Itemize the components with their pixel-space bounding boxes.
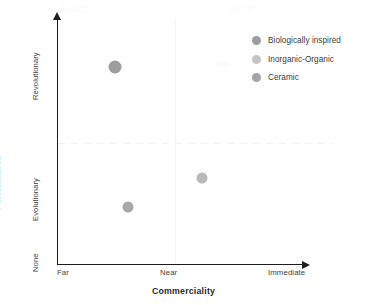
x-axis-line xyxy=(57,264,303,265)
y-axis-line xyxy=(57,20,58,265)
quadrant-divider-vertical xyxy=(175,18,176,266)
x-tick-label-immediate: Immediate xyxy=(268,268,305,277)
y-tick-label-evolutionary: Evolutionary xyxy=(31,178,40,221)
y-tick-label-none: None xyxy=(31,253,40,272)
legend-item-label: Inorganic-Organic xyxy=(268,55,334,64)
legend-marker-circle-icon xyxy=(252,73,261,82)
legend-item-biologically-inspired[interactable]: Biologically inspired xyxy=(252,33,341,48)
legend-item-inorganic-organic[interactable]: Inorganic-Organic xyxy=(252,52,341,67)
legend-item-label: Ceramic xyxy=(268,73,299,82)
y-tick-label-revolutionary: Revolutionary xyxy=(31,52,40,100)
watermark-middle: nm xyxy=(216,57,229,68)
chart-legend: Biologically inspired Inorganic-Organic … xyxy=(252,33,341,89)
legend-item-ceramic[interactable]: Ceramic xyxy=(252,70,341,85)
data-point-inorganic-organic[interactable] xyxy=(197,173,208,184)
legend-item-label: Biologically inspired xyxy=(268,36,341,45)
legend-marker-circle-icon xyxy=(252,36,261,45)
watermark-right: Image xyxy=(228,1,259,15)
x-tick-label-near: Near xyxy=(160,268,177,277)
chart-figure: Image Image nm Revolutionary Evolutionar… xyxy=(0,0,367,305)
watermark-left: Image xyxy=(62,1,93,15)
y-axis-arrowhead-icon xyxy=(53,12,61,20)
legend-marker-circle-icon xyxy=(252,55,261,64)
x-axis-title: Commerciality xyxy=(0,286,367,296)
y-axis-title: Performance xyxy=(0,156,2,210)
quadrant-divider-horizontal xyxy=(58,143,333,144)
x-tick-label-far: Far xyxy=(57,268,69,277)
data-point-ceramic[interactable] xyxy=(123,202,134,213)
data-point-biologically-inspired[interactable] xyxy=(109,61,122,74)
